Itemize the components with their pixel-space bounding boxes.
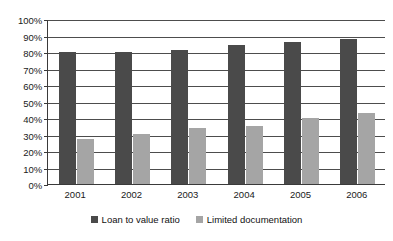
- y-axis-label: 80%: [23, 48, 42, 59]
- bar-2005-series-1: [302, 118, 319, 184]
- y-tick-0%: [44, 185, 48, 186]
- x-axis-label-2002: 2002: [121, 189, 142, 200]
- y-axis-label: 90%: [23, 31, 42, 42]
- bar-group-2003: [161, 20, 217, 184]
- y-axis-label: 50%: [23, 97, 42, 108]
- y-axis-label: 10%: [23, 163, 42, 174]
- y-axis: 0%10%20%30%40%50%60%70%80%90%100%: [0, 0, 45, 241]
- bar-2001-series-1: [77, 139, 94, 184]
- legend-item-0[interactable]: Loan to value ratio: [91, 214, 180, 225]
- bar-group-2002: [104, 20, 160, 184]
- bar-chart: 0%10%20%30%40%50%60%70%80%90%100% 200120…: [0, 0, 393, 241]
- bar-2003-series-1: [189, 128, 206, 184]
- bar-2004-series-1: [246, 126, 263, 184]
- x-axis-label-2005: 2005: [290, 189, 311, 200]
- bar-2002-series-1: [133, 134, 150, 184]
- bar-2006-series-0: [340, 39, 357, 184]
- legend-swatch-icon: [196, 216, 203, 223]
- bar-group-2005: [273, 20, 329, 184]
- y-axis-label: 0%: [28, 180, 42, 191]
- x-axis-label-2003: 2003: [177, 189, 198, 200]
- bar-2001-series-0: [59, 52, 76, 184]
- bar-group-2001: [48, 20, 104, 184]
- bar-group-2006: [330, 20, 386, 184]
- plot-area: [47, 20, 385, 185]
- chart-legend: Loan to value ratioLimited documentation: [0, 214, 393, 225]
- bar-2004-series-0: [228, 45, 245, 184]
- bar-group-2004: [217, 20, 273, 184]
- x-axis: 200120022003200420052006: [47, 189, 385, 207]
- y-axis-label: 60%: [23, 81, 42, 92]
- legend-label: Loan to value ratio: [102, 214, 180, 225]
- y-axis-label: 40%: [23, 114, 42, 125]
- x-axis-label-2001: 2001: [65, 189, 86, 200]
- bar-2005-series-0: [284, 42, 301, 184]
- x-axis-label-2006: 2006: [346, 189, 367, 200]
- y-axis-label: 70%: [23, 64, 42, 75]
- y-axis-label: 20%: [23, 147, 42, 158]
- y-axis-label: 100%: [18, 15, 42, 26]
- bars-layer: [48, 20, 385, 184]
- bar-2003-series-0: [171, 50, 188, 184]
- x-axis-label-2004: 2004: [234, 189, 255, 200]
- bar-2002-series-0: [115, 52, 132, 184]
- y-axis-label: 30%: [23, 130, 42, 141]
- legend-item-1[interactable]: Limited documentation: [196, 214, 303, 225]
- legend-swatch-icon: [91, 216, 98, 223]
- legend-label: Limited documentation: [207, 214, 303, 225]
- bar-2006-series-1: [358, 113, 375, 184]
